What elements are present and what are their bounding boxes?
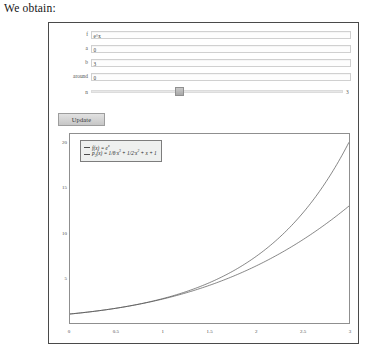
x-axis-tick-label: 0 [61,329,77,334]
legend-color-swatch [84,154,90,155]
lower-bound-field-label: a [49,46,91,51]
plot-curves [70,134,349,323]
curve-series [70,142,349,314]
x-axis-tick-label: 2 [248,329,264,334]
y-axis-tick-label: 10 [56,231,67,236]
plot-area: f(x) = exp3(x) = 1/6·x3 + 1/2·x2 + x + 1… [58,133,351,336]
function-field[interactable]: e^x [91,31,351,39]
curve-series [70,206,349,314]
legend-label: p3(x) = 1/6·x3 + 1/2·x2 + x + 1 [92,148,157,160]
lower-bound-field-row: a0 [49,42,360,55]
order-slider-value: 3 [346,89,360,95]
plot-legend: f(x) = exp3(x) = 1/6·x3 + 1/2·x2 + x + 1 [80,140,162,162]
upper-bound-field[interactable]: 3 [91,59,351,67]
order-slider-row: n3 [49,85,360,98]
around-field-row: around0 [49,70,360,83]
slider-handle[interactable] [175,87,184,96]
order-slider-label: n [49,89,91,95]
lower-bound-field[interactable]: 0 [91,45,351,53]
legend-entry: p3(x) = 1/6·x3 + 1/2·x2 + x + 1 [84,151,157,158]
around-field-label: around [49,74,91,79]
order-slider[interactable] [91,87,343,96]
function-field-label: f [49,32,91,37]
slider-track[interactable] [91,90,343,93]
upper-bound-field-label: b [49,60,91,65]
x-axis-tick-label: 1 [155,329,171,334]
y-axis-tick-label: 20 [56,140,67,145]
intro-text: We obtain: [4,2,56,14]
update-button[interactable]: Update [58,113,105,126]
parameter-form: fe^xa0b3around0n3 [49,23,360,109]
function-field-row: fe^x [49,28,360,41]
legend-color-swatch [84,147,90,148]
y-axis-tick-label: 5 [56,276,67,281]
around-field[interactable]: 0 [91,73,351,81]
upper-bound-field-row: b3 [49,56,360,69]
x-axis-tick-label: 0.5 [108,329,124,334]
x-axis-tick-label: 2.5 [295,329,311,334]
x-axis-tick-label: 1.5 [202,329,218,334]
y-axis-tick-label: 15 [56,185,67,190]
x-axis-tick-label: 3 [342,329,358,334]
plot-frame: f(x) = exp3(x) = 1/6·x3 + 1/2·x2 + x + 1 [69,133,350,324]
application-panel: fe^xa0b3around0n3 Update f(x) = exp3(x) … [48,22,359,344]
